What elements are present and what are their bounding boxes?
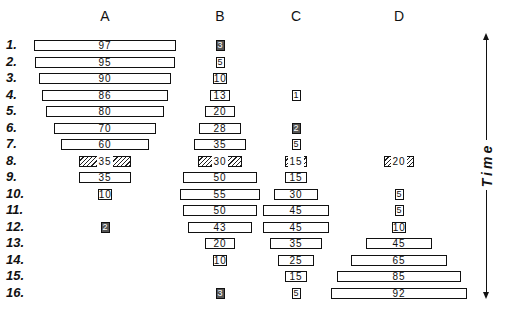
bar-value: 85 <box>392 271 405 282</box>
bar-c-row-11: 45 <box>263 205 329 216</box>
bar-c-row-15: 15 <box>285 271 307 282</box>
bar-a-row-5: 80 <box>46 106 164 117</box>
bar-value: 3 <box>217 288 222 298</box>
bar-a-row-3: 90 <box>39 73 171 84</box>
bar-value: 45 <box>289 222 302 233</box>
bar-value: 13 <box>213 90 226 101</box>
bar-a-row-6: 70 <box>54 123 157 134</box>
bar-value: 30 <box>212 156 227 167</box>
bar-value: 5 <box>396 189 401 199</box>
bar-b-row-3: 10 <box>213 73 228 84</box>
row-label: 13. <box>6 235 34 250</box>
bar-b-row-6: 28 <box>199 123 240 134</box>
row-label: 15. <box>6 268 34 283</box>
bar-b-row-7: 35 <box>194 139 245 150</box>
bar-value: 90 <box>98 73 111 84</box>
bar-value: 10 <box>214 73 227 84</box>
bar-d-row-13: 45 <box>366 238 432 249</box>
time-axis-label: Time <box>472 140 502 190</box>
bar-a-row-10: 10 <box>98 189 113 200</box>
bar-value: 65 <box>392 255 405 266</box>
bar-d-row-12: 10 <box>392 222 407 233</box>
bar-a-row-12: 2 <box>101 222 110 233</box>
bar-value: 45 <box>289 205 302 216</box>
row-label: 7. <box>6 136 34 151</box>
bar-b-row-8: 30 <box>198 156 242 167</box>
row-label: 5. <box>6 103 34 118</box>
row-label: 2. <box>6 54 34 69</box>
bar-d-row-11: 5 <box>395 205 404 216</box>
bar-c-row-8: 15 <box>285 156 307 167</box>
bar-value: 50 <box>213 205 226 216</box>
bar-value: 5 <box>396 205 401 215</box>
bar-value: 10 <box>214 255 227 266</box>
bar-value: 80 <box>98 106 111 117</box>
bar-value: 1 <box>293 90 298 100</box>
bar-b-row-2: 5 <box>216 57 225 68</box>
seriation-diagram: A B C D 1.2.3.4.5.6.7.8.9.10.11.12.13.14… <box>0 0 505 311</box>
bar-value: 20 <box>213 106 226 117</box>
bar-c-row-6: 2 <box>292 123 301 134</box>
bar-value: 2 <box>102 222 107 232</box>
bar-value: 20 <box>391 156 406 167</box>
bar-value: 97 <box>98 40 111 51</box>
bar-value: 35 <box>213 139 226 150</box>
bar-a-row-4: 86 <box>42 90 168 101</box>
bar-b-row-4: 13 <box>210 90 229 101</box>
row-label: 4. <box>6 87 34 102</box>
bar-value: 35 <box>98 172 111 183</box>
bar-c-row-9: 15 <box>285 172 307 183</box>
bar-value: 3 <box>217 40 222 50</box>
bar-c-row-4: 1 <box>292 90 301 101</box>
bar-value: 35 <box>289 238 302 249</box>
bar-value: 5 <box>217 57 222 67</box>
row-label: 1. <box>6 37 34 52</box>
bar-b-row-1: 3 <box>216 40 225 51</box>
time-label-text: Time <box>479 143 495 187</box>
bar-value: 95 <box>98 57 111 68</box>
bar-b-row-13: 20 <box>205 238 234 249</box>
row-label: 10. <box>6 186 34 201</box>
row-label: 16. <box>6 285 34 300</box>
arrow-down-icon <box>483 292 489 299</box>
bar-value: 43 <box>213 222 226 233</box>
bar-value: 10 <box>99 189 112 200</box>
bar-value: 5 <box>293 139 298 149</box>
bar-a-row-1: 97 <box>34 40 177 51</box>
bar-a-row-8: 35 <box>79 156 130 167</box>
bar-value: 55 <box>213 189 226 200</box>
bar-value: 2 <box>293 123 298 133</box>
bar-value: 15 <box>289 172 302 183</box>
bar-a-row-9: 35 <box>79 172 130 183</box>
bar-b-row-9: 50 <box>183 172 257 183</box>
bar-value: 5 <box>293 288 298 298</box>
bar-value: 20 <box>213 238 226 249</box>
bar-value: 92 <box>392 288 405 299</box>
bar-value: 10 <box>393 222 406 233</box>
bar-c-row-14: 25 <box>278 255 315 266</box>
bar-d-row-16: 92 <box>331 288 466 299</box>
column-header-b: B <box>200 8 240 24</box>
bar-c-row-10: 30 <box>274 189 318 200</box>
bar-a-row-7: 60 <box>61 139 149 150</box>
row-label: 12. <box>6 219 34 234</box>
row-label: 14. <box>6 252 34 267</box>
bar-b-row-10: 55 <box>180 189 261 200</box>
bar-b-row-5: 20 <box>205 106 234 117</box>
column-header-d: D <box>379 8 419 24</box>
bar-d-row-10: 5 <box>395 189 404 200</box>
bar-value: 86 <box>98 90 111 101</box>
bar-b-row-16: 3 <box>216 288 225 299</box>
bar-value: 60 <box>98 139 111 150</box>
bar-b-row-12: 43 <box>188 222 251 233</box>
row-label: 3. <box>6 70 34 85</box>
bar-b-row-11: 50 <box>183 205 257 216</box>
bar-value: 30 <box>289 189 302 200</box>
bar-c-row-13: 35 <box>270 238 321 249</box>
column-header-a: A <box>85 8 125 24</box>
bar-d-row-15: 85 <box>337 271 462 282</box>
bar-c-row-16: 5 <box>292 288 301 299</box>
bar-value: 70 <box>98 123 111 134</box>
row-label: 11. <box>6 202 34 217</box>
column-header-c: C <box>276 8 316 24</box>
